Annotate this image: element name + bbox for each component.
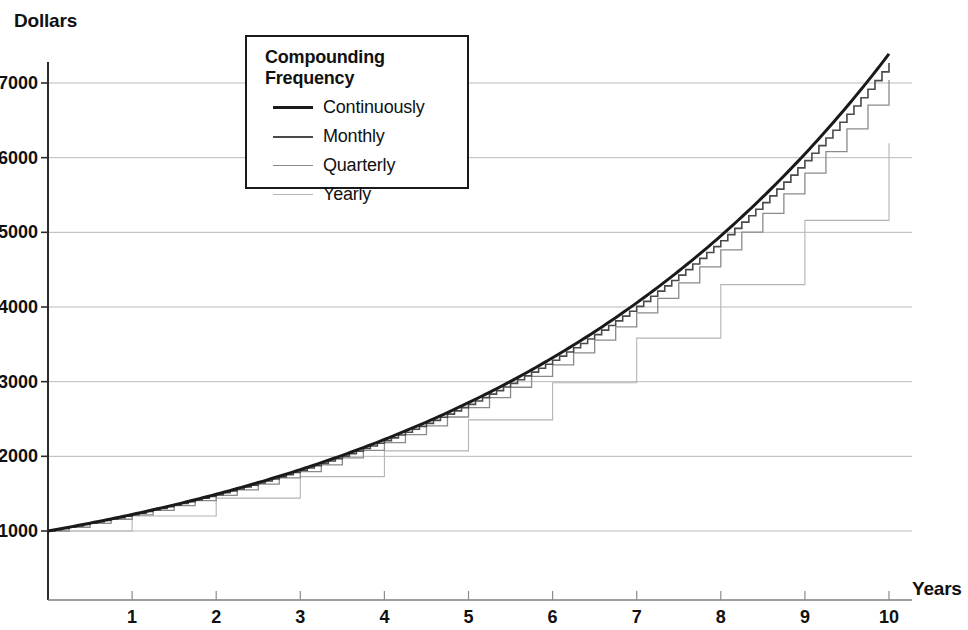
compound-interest-chart: Dollars Years 10002000300040005000600070… xyxy=(0,0,968,630)
legend-item-label: Continuously xyxy=(323,97,425,118)
x-tick-label: 2 xyxy=(211,607,221,628)
x-tick-label: 8 xyxy=(716,607,726,628)
x-tick-label: 5 xyxy=(463,607,473,628)
y-axis-title: Dollars xyxy=(14,10,77,32)
legend-item-quarterly: Quarterly xyxy=(273,151,467,180)
y-tick-label: 2000 xyxy=(0,446,38,467)
legend-line-swatch xyxy=(273,165,313,166)
legend-line-swatch xyxy=(273,136,313,138)
axis-lines xyxy=(48,62,912,600)
y-tick-label: 3000 xyxy=(0,371,38,392)
x-axis-ticks xyxy=(132,591,889,600)
legend-item-label: Quarterly xyxy=(323,155,395,176)
series-line-yearly xyxy=(48,143,889,531)
legend-item-continuously: Continuously xyxy=(273,93,467,122)
plot-area xyxy=(0,0,968,630)
y-tick-label: 7000 xyxy=(0,73,38,94)
x-tick-label: 9 xyxy=(800,607,810,628)
gridlines xyxy=(41,83,912,531)
legend-title: Compounding Frequency xyxy=(265,47,467,89)
legend-box: Compounding Frequency ContinuouslyMonthl… xyxy=(245,35,469,189)
legend-line-swatch xyxy=(273,106,313,109)
x-tick-label: 3 xyxy=(295,607,305,628)
x-tick-label: 10 xyxy=(879,607,899,628)
x-tick-label: 7 xyxy=(632,607,642,628)
x-tick-label: 6 xyxy=(548,607,558,628)
y-tick-label: 6000 xyxy=(0,147,38,168)
legend-item-label: Yearly xyxy=(323,184,371,205)
y-tick-label: 1000 xyxy=(0,521,38,542)
x-axis-title: Years xyxy=(912,578,962,600)
y-tick-label: 5000 xyxy=(0,222,38,243)
legend-line-swatch xyxy=(273,194,313,195)
legend-item-label: Monthly xyxy=(323,126,385,147)
legend-item-monthly: Monthly xyxy=(273,122,467,151)
legend-item-yearly: Yearly xyxy=(273,180,467,209)
x-tick-label: 4 xyxy=(379,607,389,628)
legend-entries: ContinuouslyMonthlyQuarterlyYearly xyxy=(261,93,467,209)
y-tick-label: 4000 xyxy=(0,297,38,318)
x-tick-label: 1 xyxy=(127,607,137,628)
